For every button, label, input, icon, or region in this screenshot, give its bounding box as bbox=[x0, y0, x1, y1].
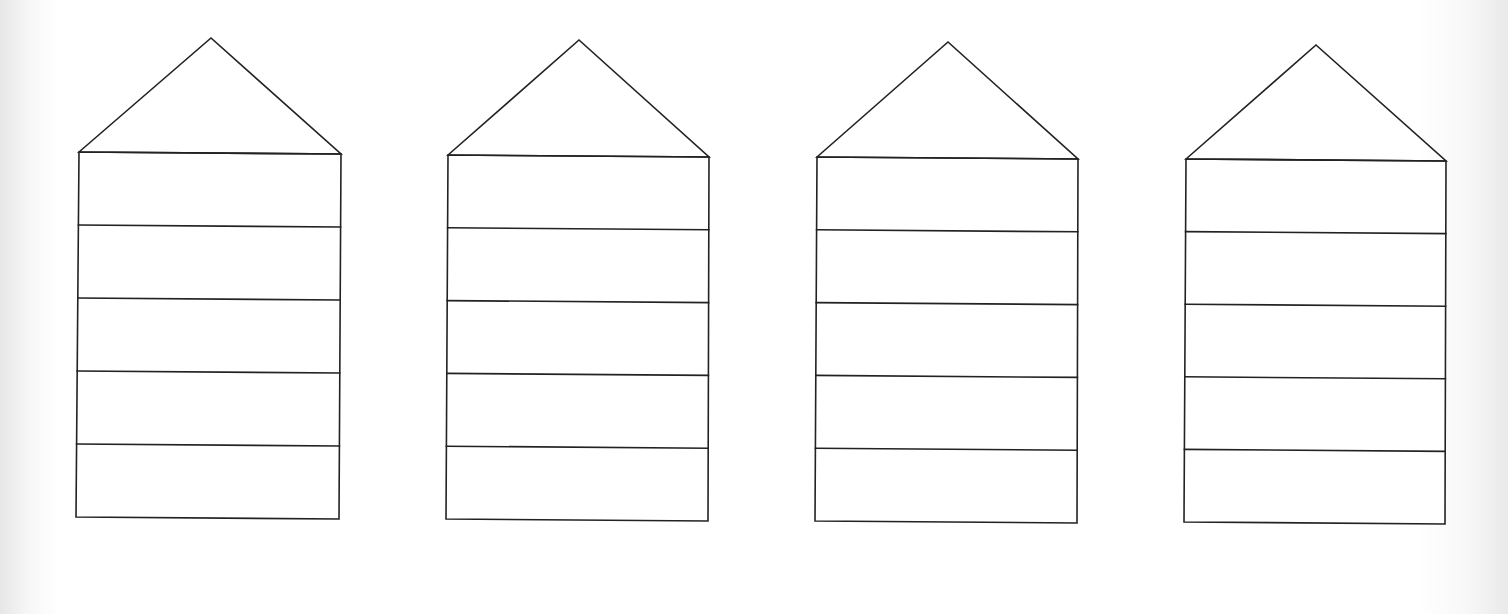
house-row-3 bbox=[447, 301, 709, 376]
house-row-4 bbox=[815, 375, 1077, 450]
house-roof bbox=[817, 42, 1078, 159]
house-row-3 bbox=[1185, 304, 1446, 379]
house-row-4 bbox=[77, 371, 340, 446]
house-roof bbox=[1186, 45, 1446, 161]
worksheet-page bbox=[0, 0, 1508, 614]
house-row-2 bbox=[1185, 232, 1446, 307]
house-row-2 bbox=[816, 230, 1078, 305]
house bbox=[446, 40, 709, 521]
house-row-5 bbox=[446, 446, 708, 521]
house-row-2 bbox=[447, 228, 709, 303]
house-row-4 bbox=[1184, 377, 1445, 452]
house-row-1 bbox=[817, 157, 1078, 232]
house bbox=[1184, 45, 1446, 524]
house-row-2 bbox=[78, 225, 341, 300]
house-roof bbox=[448, 40, 709, 157]
house-row-1 bbox=[78, 152, 341, 227]
house bbox=[815, 42, 1078, 523]
house-row-1 bbox=[448, 155, 709, 230]
house-roof bbox=[79, 38, 341, 154]
house-row-5 bbox=[76, 444, 339, 519]
house-row-1 bbox=[1186, 159, 1446, 234]
house-row-5 bbox=[815, 448, 1077, 523]
house-row-3 bbox=[77, 298, 340, 373]
houses-diagram bbox=[0, 0, 1508, 614]
house-row-5 bbox=[1184, 449, 1445, 524]
house-row-3 bbox=[816, 303, 1078, 378]
house-row-4 bbox=[446, 373, 708, 448]
house bbox=[76, 38, 341, 519]
